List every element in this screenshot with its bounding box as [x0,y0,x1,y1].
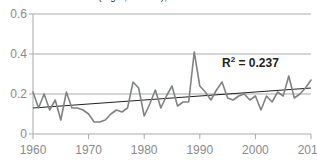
x-axis-ticks [33,134,311,139]
r-squared-value: = 0.237 [235,56,279,70]
x-axis-label: 1980 [124,144,164,156]
r-squared-symbol: R [222,56,231,70]
x-axis-label: 1990 [180,144,220,156]
x-axis-label: 2000 [235,144,275,156]
y-axis-label: 0 [0,128,27,140]
x-axis-label: 2010 [291,144,317,156]
y-axis-label: 0.6 [0,8,27,20]
y-axis-ticks [29,14,33,134]
plot-area [0,0,317,165]
y-axis-label: 0.2 [0,88,27,100]
x-axis-label: 1960 [13,144,53,156]
r-squared-annotation: R2 = 0.237 [222,56,279,70]
y-axis-label: 0.4 [0,48,27,60]
chart-container: (mg/L, annual), 1960-2010 00.20.40.6 196… [0,0,317,165]
gridlines [33,14,311,134]
x-axis-label: 1970 [69,144,109,156]
